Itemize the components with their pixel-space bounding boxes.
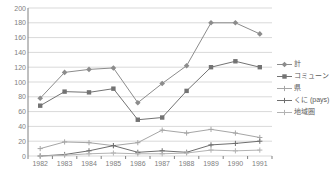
legend-label: くに (pays) (293, 96, 329, 104)
y-tick-label: 160 (2, 34, 26, 41)
x-tick-label: 1991 (246, 160, 274, 168)
y-tick-label: 180 (2, 19, 26, 26)
legend-item-4[interactable]: くに (pays) (276, 94, 335, 106)
legend-label: 地域圏 (293, 108, 315, 116)
y-tick-label: 40 (2, 123, 26, 130)
data-point-marker (282, 97, 287, 102)
y-tick-label: 80 (2, 93, 26, 100)
legend-marker-icon (276, 95, 293, 106)
legend-item-1[interactable]: 計 (276, 58, 335, 70)
data-point-marker (282, 61, 288, 67)
y-tick-label: 20 (2, 138, 26, 145)
y-tick-label: 200 (2, 5, 26, 12)
y-tick-label: 140 (2, 49, 26, 56)
legend-label: コミューン (293, 72, 329, 80)
legend-label: 計 (293, 60, 301, 68)
line-chart: 200180160140120100806040200 198219831984… (0, 0, 335, 182)
legend-item-3[interactable]: 県 (276, 82, 335, 94)
legend-marker-icon (276, 83, 293, 94)
data-point-marker (282, 85, 287, 90)
plot-area (28, 8, 272, 156)
y-tick-label: 60 (2, 108, 26, 115)
chart-legend: 計コミューン県くに (pays)地域圏 (276, 58, 335, 118)
legend-marker-icon (276, 59, 293, 70)
y-tick-label: 120 (2, 64, 26, 71)
legend-label: 県 (293, 84, 301, 92)
y-axis-tick-labels: 200180160140120100806040200 (0, 8, 26, 156)
y-tick-label: 100 (2, 79, 26, 86)
y-tick-label: 0 (2, 153, 26, 160)
x-axis-tick-labels: 1982198319841985198619871988198919901991 (28, 160, 272, 172)
legend-marker-icon (276, 71, 293, 82)
legend-item-5[interactable]: 地域圏 (276, 106, 335, 118)
legend-marker-icon (276, 107, 293, 118)
legend-item-2[interactable]: コミューン (276, 70, 335, 82)
data-point-marker (282, 74, 286, 78)
axis-lines (28, 8, 272, 156)
data-point-marker (282, 109, 287, 114)
